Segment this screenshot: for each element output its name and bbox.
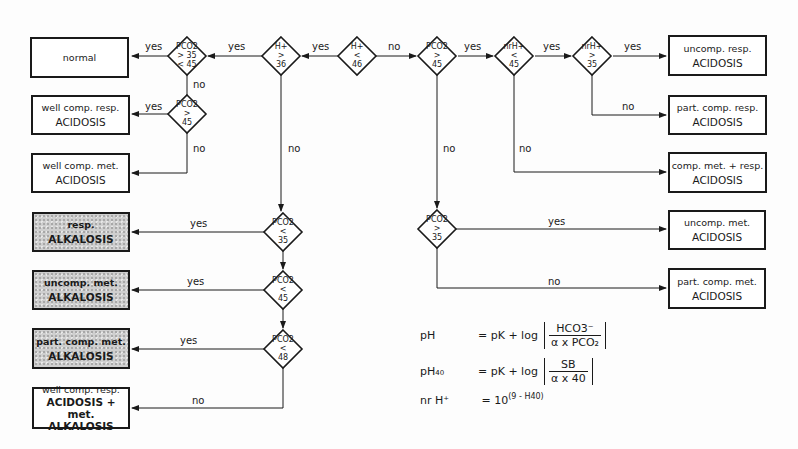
outcome-comp-met-resp-acidosis: comp. met. + resp.ACIDOSIS [668,152,767,193]
decision-nrh-gt-35: nrH+>35 [577,42,607,69]
decision-pco2-gt-45-left: PCO2>45 [172,100,202,127]
outcome-uncomp-met-acidosis: uncomp. met.ACIDOSIS [668,210,766,250]
edge-label-yes: yes [464,41,481,52]
decision-h-gt-36: H+>36 [266,42,296,69]
edge-label-yes: yes [228,41,245,52]
edge-label-yes: yes [312,41,329,52]
edge-label-no: no [193,143,205,154]
outcome-well-comp-met-acidosis: well comp. met.ACIDOSIS [31,153,130,193]
formula-nrh: nr H⁺ = 10(9 - H40) [420,392,544,407]
edge-label-no: no [193,79,205,90]
edge-label-yes: yes [180,335,197,346]
edge-label-yes: yes [543,41,560,52]
outcome-part-comp-met-acidosis: part. comp. met.ACIDOSIS [668,268,766,309]
edge-label-yes: yes [190,218,207,229]
outcome-resp-alkalosis: resp.ALKALOSIS [32,212,130,252]
edge-label-no: no [519,143,531,154]
edge-label-no: no [622,101,634,112]
outcome-uncomp-resp-acidosis: uncomp. resp.ACIDOSIS [668,35,767,76]
decision-h-lt-46: H+<46 [342,42,372,69]
edge-label-no: no [443,143,455,154]
edge-label-yes: yes [187,276,204,287]
edge-label-yes: yes [548,216,565,227]
decision-pco2-lt-35: PCO2<35 [268,218,298,245]
edge-label-no: no [192,395,204,406]
decision-pco2-gt-45-top: PCO2>45 [422,42,452,69]
edge-label-no: no [288,143,300,154]
outcome-well-comp-resp-acidosis-met-alkalosis: well comp. resp.ACIDOSIS + met.ALKALOSIS [32,387,130,429]
decision-nrh-lt-45: nrH+<45 [499,42,529,69]
outcome-part-comp-resp-acidosis: part. comp. resp.ACIDOSIS [668,95,767,135]
outcome-normal: normal [30,37,129,78]
edge-label-no: no [388,41,400,52]
decision-pco2-lt-45: PCO2<45 [268,276,298,303]
decision-pco2-normal-range: PCO2> 35< 45 [172,42,202,69]
outcome-part-comp-met-alkalosis: part. comp. met.ALKALOSIS [32,328,130,369]
formula-ph40: pH₄₀ = pK + log SBα x 40 [420,354,593,388]
edge-label-yes: yes [145,101,162,112]
edge-label-no: no [548,276,560,287]
edge-label-yes: yes [624,41,641,52]
decision-pco2-gt-35-right: PCO2>35 [422,215,452,242]
edge-label-yes: yes [145,41,162,52]
decision-pco2-lt-48: PCO2<48 [268,335,298,362]
outcome-well-comp-resp-acidosis: well comp. resp.ACIDOSIS [31,95,130,135]
outcome-uncomp-met-alkalosis: uncomp. met.ALKALOSIS [32,270,130,310]
formula-ph: pH = pK + log HCO3⁻α x PCO₂ [420,318,606,352]
